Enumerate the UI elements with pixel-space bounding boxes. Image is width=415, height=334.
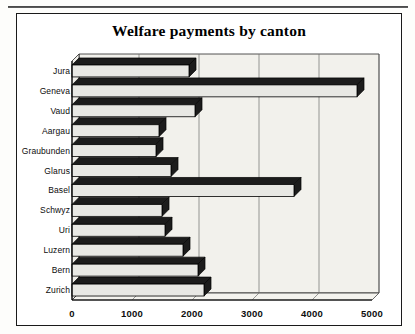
x-axis-tick-5000: 5000	[361, 308, 383, 319]
x-axis-tick-4000: 4000	[301, 308, 323, 319]
page-top-rule	[8, 6, 408, 8]
x-axis-tick-0: 0	[69, 308, 74, 319]
chart-title: Welfare payments by canton	[17, 22, 401, 40]
x-axis-tick-1000: 1000	[121, 308, 143, 319]
x-axis-tick-labels: 010002000300040005000	[17, 48, 403, 325]
chart-area: JuraGenevaVaudAargauGraubundenGlarusBase…	[17, 48, 403, 325]
x-axis-tick-2000: 2000	[181, 308, 203, 319]
x-axis-tick-3000: 3000	[241, 308, 263, 319]
chart-frame: Welfare payments by canton JuraGenevaVau…	[16, 13, 402, 326]
